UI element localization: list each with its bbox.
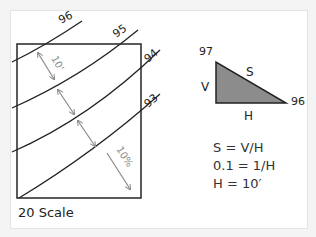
contour-label-94: 94	[142, 46, 161, 65]
contour-line-96	[12, 21, 82, 62]
site-boundary	[17, 44, 141, 198]
spacing-arrow-3	[78, 121, 95, 146]
spacing-arrow-2	[58, 90, 74, 114]
scale-label: 20 Scale	[18, 205, 74, 220]
triangle-right-elevation: 96	[291, 95, 305, 108]
slope-percent-label: 10%	[114, 144, 135, 169]
triangle-slope-label: S	[246, 65, 254, 79]
contour-line-94	[12, 50, 160, 152]
contour-label-95: 95	[110, 22, 129, 41]
triangle-top-elevation: 97	[199, 45, 213, 58]
triangle-horizontal-label: H	[244, 109, 253, 123]
contour-diagram: 96 95 94 93 10' 10% 97 96 V S H	[0, 0, 316, 237]
triangle-vertical-label: V	[201, 80, 210, 94]
equation-3: H = 10′	[213, 175, 261, 193]
equation-2: 0.1 = 1/H	[213, 157, 275, 175]
equation-1: S = V/H	[213, 139, 263, 157]
contour-label-96: 96	[56, 9, 74, 27]
contour-line-93	[19, 94, 160, 198]
spacing-label: 10'	[49, 54, 66, 73]
contour-line-95	[12, 30, 138, 108]
